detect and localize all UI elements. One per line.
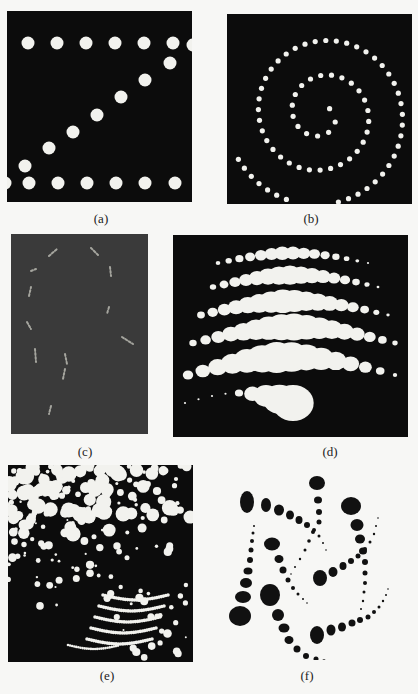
- panel-f-graphic: [225, 470, 395, 660]
- panel-e: [8, 465, 193, 662]
- panel-b: [227, 14, 412, 204]
- panel-c-graphic: [11, 234, 148, 434]
- panel-b-graphic: [227, 14, 412, 204]
- panel-a-label: (a): [81, 211, 121, 227]
- panel-c: [11, 234, 148, 434]
- panel-f-label: (f): [287, 668, 327, 684]
- panel-d-label: (d): [310, 444, 350, 460]
- panel-c-label: (c): [65, 444, 105, 460]
- panel-d-graphic: [173, 235, 408, 437]
- panel-f: [225, 470, 395, 660]
- panel-e-graphic: [8, 465, 193, 662]
- panel-b-label: (b): [291, 211, 331, 227]
- panel-d: [173, 235, 408, 437]
- panel-a-graphic: [7, 11, 192, 202]
- panel-a: [7, 11, 192, 202]
- panel-e-label: (e): [87, 668, 127, 684]
